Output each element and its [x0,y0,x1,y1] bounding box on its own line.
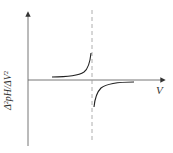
x-axis-label: V [156,84,163,96]
curve-right-branch [94,82,134,107]
curve-left-branch [52,53,91,77]
second-derivative-titration-chart [0,0,173,153]
y-axis-label: Δ²pH/ΔV² [2,71,13,110]
